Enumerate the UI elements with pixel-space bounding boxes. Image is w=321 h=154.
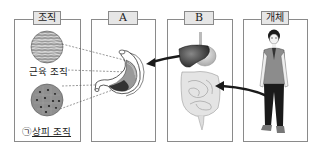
arrow-individual-to-b-icon: [215, 81, 267, 96]
muscle-tissue-icon: [31, 31, 63, 63]
muscle-tissue-label: 근육 조직: [29, 64, 68, 78]
stomach-icon: [95, 50, 144, 96]
epithelial-tissue-label: 상피 조직: [32, 126, 71, 137]
panel-label-tissue: 조직: [33, 11, 61, 25]
person-icon: [260, 30, 288, 134]
epithelial-tissue-caption: ㉠상피 조직: [22, 124, 71, 138]
arrow-b-to-a-icon: [146, 56, 180, 67]
digestive-system-icon: [179, 32, 220, 130]
panel-label-individual: 개체: [261, 11, 289, 25]
epithelial-tissue-icon: [31, 84, 63, 116]
epithelial-marker: ㉠: [22, 126, 32, 137]
panel-label-a: A: [108, 11, 138, 25]
panel-label-b: B: [184, 11, 214, 25]
